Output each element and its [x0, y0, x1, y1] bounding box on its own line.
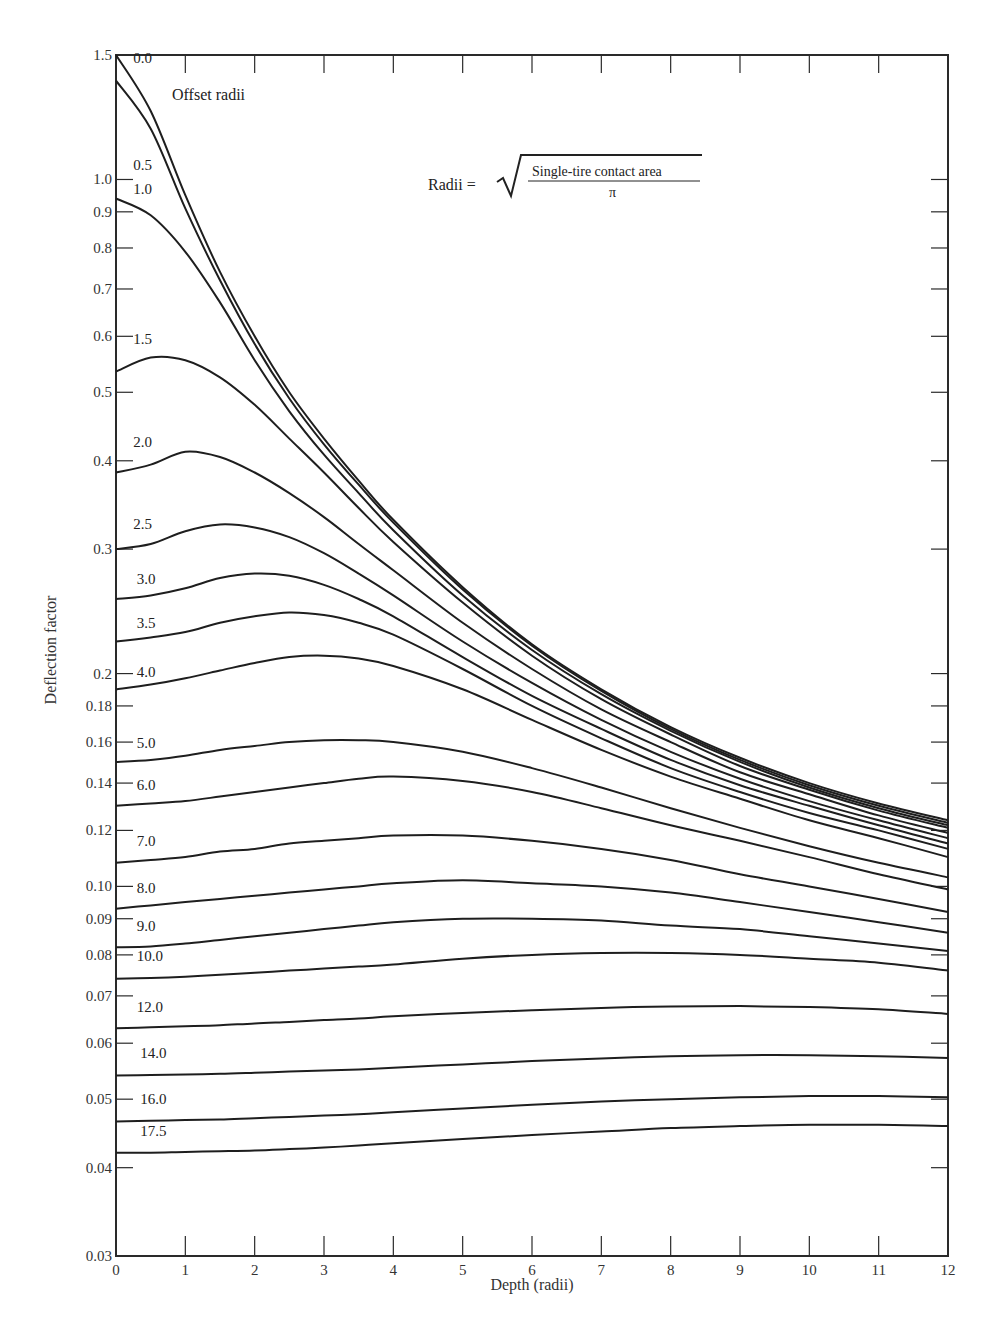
- curve-label: 0.5: [133, 157, 152, 173]
- y-tick-label: 0.9: [93, 204, 112, 220]
- y-axis-title: Deflection factor: [42, 595, 59, 705]
- curve-offset-10-0: [116, 953, 948, 979]
- curve-label: 7.0: [137, 833, 156, 849]
- y-tick-label: 0.09: [86, 911, 112, 927]
- y-tick-label: 1.0: [93, 171, 112, 187]
- x-tick-label: 8: [667, 1262, 675, 1278]
- curve-label: 2.5: [133, 516, 152, 532]
- y-tick-label: 0.12: [86, 822, 112, 838]
- curve-label: 3.0: [137, 571, 156, 587]
- deflection-factor-chart: 0123456789101112 1.51.00.90.80.70.60.50.…: [0, 0, 991, 1325]
- curve-offset-1-5: [116, 357, 948, 828]
- curve-label: 4.0: [137, 664, 156, 680]
- y-tick-label: 0.6: [93, 328, 112, 344]
- y-tick-label: 0.08: [86, 947, 112, 963]
- x-tick-label: 0: [112, 1262, 120, 1278]
- curve-offset-7-0: [116, 835, 948, 912]
- curve-label: 17.5: [140, 1123, 166, 1139]
- x-tick-label: 5: [459, 1262, 467, 1278]
- x-tick-label: 12: [941, 1262, 956, 1278]
- curve-offset-9-0: [116, 918, 948, 951]
- x-tick-label: 7: [598, 1262, 606, 1278]
- x-tick-label: 9: [736, 1262, 744, 1278]
- curve-label: 8.0: [137, 880, 156, 896]
- y-tick-label: 0.14: [86, 775, 113, 791]
- x-tick-label: 1: [182, 1262, 190, 1278]
- radii-formula: Radii = Single-tire contact area π: [428, 155, 702, 200]
- curve-series: [116, 55, 948, 1153]
- y-tick-label: 0.03: [86, 1248, 112, 1264]
- y-tick-label: 0.04: [86, 1160, 113, 1176]
- curve-label: 12.0: [137, 999, 163, 1015]
- curve-offset-1-0: [116, 199, 948, 826]
- y-tick-label: 0.10: [86, 878, 112, 894]
- y-tick-label: 0.16: [86, 734, 113, 750]
- x-tick-label: 4: [390, 1262, 398, 1278]
- formula-lhs: Radii =: [428, 176, 476, 193]
- curve-offset-16-0: [116, 1096, 948, 1122]
- y-tick-label: 0.3: [93, 541, 112, 557]
- x-tick-label: 3: [320, 1262, 328, 1278]
- x-tick-label: 10: [802, 1262, 817, 1278]
- curve-label: 0.0: [133, 50, 152, 66]
- formula-numerator: Single-tire contact area: [532, 164, 663, 179]
- curve-offset-5-0: [116, 740, 948, 877]
- y-tick-label: 0.8: [93, 240, 112, 256]
- y-tick-label: 0.07: [86, 988, 113, 1004]
- y-tick-label: 0.5: [93, 384, 112, 400]
- curve-offset-3-5: [116, 612, 948, 848]
- y-tick-label: 0.05: [86, 1091, 112, 1107]
- legend-title: Offset radii: [172, 86, 246, 103]
- curve-label: 3.5: [137, 615, 156, 631]
- y-tick-label: 1.5: [93, 47, 112, 63]
- y-tick-label: 0.4: [93, 453, 112, 469]
- curve-label: 16.0: [140, 1091, 166, 1107]
- curve-offset-17-5: [116, 1125, 948, 1153]
- curve-label: 1.0: [133, 181, 152, 197]
- curve-offset-12-0: [116, 1006, 948, 1028]
- formula-denominator: π: [609, 185, 616, 200]
- curve-offset-14-0: [116, 1055, 948, 1075]
- curve-offset-2-0: [116, 451, 948, 833]
- curve-label: 14.0: [140, 1045, 166, 1061]
- curve-label: 5.0: [137, 735, 156, 751]
- y-axis-ticks: 1.51.00.90.80.70.60.50.40.30.20.180.160.…: [86, 47, 948, 1264]
- curve-label: 1.5: [133, 331, 152, 347]
- curve-label: 6.0: [137, 777, 156, 793]
- curve-offset-3-0: [116, 573, 948, 843]
- y-tick-label: 0.7: [93, 281, 112, 297]
- y-tick-label: 0.18: [86, 698, 112, 714]
- curve-label: 9.0: [137, 918, 156, 934]
- curve-offset-4-0: [116, 656, 948, 857]
- x-axis-title: Depth (radii): [490, 1276, 573, 1294]
- curve-offset-0-5: [116, 81, 948, 823]
- x-tick-label: 11: [871, 1262, 885, 1278]
- curve-label: 2.0: [133, 434, 152, 450]
- curve-label: 10.0: [137, 948, 163, 964]
- y-tick-label: 0.2: [93, 666, 112, 682]
- x-tick-label: 2: [251, 1262, 259, 1278]
- y-tick-label: 0.06: [86, 1035, 113, 1051]
